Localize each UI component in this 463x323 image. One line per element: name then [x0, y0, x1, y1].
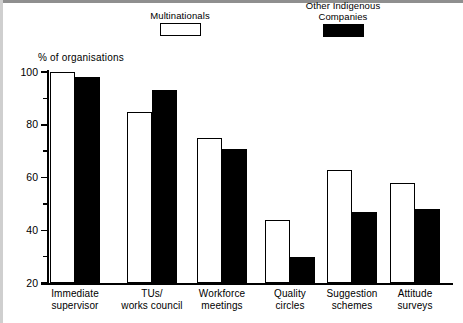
legend-item-multinationals: Multinationals — [130, 10, 230, 36]
y-axis-title: % of organisations — [38, 52, 124, 63]
y-axis-tick-label: 40 — [12, 225, 38, 236]
open-rect-swatch — [160, 23, 201, 36]
y-axis-tick-label: 20 — [12, 278, 38, 289]
bar-other-indigenous-5 — [415, 209, 440, 283]
scan-edge-left — [0, 0, 3, 323]
y-axis-tick-label: 60 — [12, 172, 38, 183]
legend-label-multinationals: Multinationals — [130, 10, 230, 21]
bar-other-indigenous-1 — [152, 90, 177, 283]
bar-other-indigenous-4 — [352, 212, 377, 283]
y-axis-tick-label: 100 — [12, 67, 38, 78]
bar-multinationals-4 — [327, 170, 352, 283]
bar-other-indigenous-3 — [290, 257, 315, 283]
bar-other-indigenous-2 — [222, 149, 247, 284]
y-axis-tick-label: 80 — [12, 119, 38, 130]
bar-multinationals-0 — [50, 72, 75, 283]
bar-multinationals-3 — [265, 220, 290, 283]
x-axis-category-label: Attitude surveys — [363, 288, 463, 311]
filled-rect-swatch — [323, 24, 364, 37]
bar-multinationals-5 — [390, 183, 415, 283]
legend-label-other-indigenous-companies: Other Indigenous Companies — [288, 0, 398, 22]
x-axis-line — [41, 283, 453, 285]
bar-other-indigenous-0 — [75, 77, 100, 283]
plot-area — [47, 72, 453, 283]
bar-chart-figure: Multinationals Other Indigenous Companie… — [0, 0, 463, 323]
bar-multinationals-2 — [197, 138, 222, 283]
bar-multinationals-1 — [127, 112, 152, 283]
legend-item-other-indigenous-companies: Other Indigenous Companies — [288, 0, 398, 37]
